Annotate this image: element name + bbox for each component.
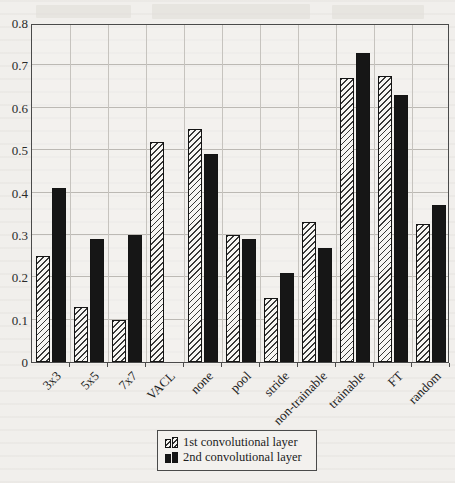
x-tick <box>69 363 70 367</box>
x-tick <box>449 363 450 367</box>
bar-non-trainable-1st-layer <box>302 222 316 362</box>
y-tick-label-0.3: 0.3 <box>1 228 28 243</box>
gridline-horizontal <box>32 64 448 65</box>
x-tick <box>411 363 412 367</box>
bar-trainable-1st-layer <box>340 78 354 362</box>
bar-3x3-2nd-layer <box>52 188 66 362</box>
gridline-vertical <box>222 25 223 362</box>
y-tick-label-0.1: 0.1 <box>1 313 28 328</box>
gridline-vertical <box>374 25 375 362</box>
gridline-vertical <box>146 25 147 362</box>
legend-label: 1st convolutional layer <box>183 435 298 450</box>
y-tick-label-0.7: 0.7 <box>1 58 28 73</box>
legend-item-2nd-layer: 2nd convolutional layer <box>165 450 309 465</box>
gridline-vertical <box>108 25 109 362</box>
gridline-vertical <box>70 25 71 362</box>
legend-swatch-hatched-icon <box>165 437 178 448</box>
bar-random-1st-layer <box>416 224 430 362</box>
bar-trainable-2nd-layer <box>356 53 370 362</box>
legend-item-1st-layer: 1st convolutional layer <box>165 435 309 450</box>
bar-ft-1st-layer <box>378 76 392 362</box>
bar-random-2nd-layer <box>432 205 446 362</box>
bar-pool-2nd-layer <box>242 239 256 362</box>
x-tick <box>145 363 146 367</box>
bar-stride-1st-layer <box>264 298 278 362</box>
gridline-vertical <box>298 25 299 362</box>
chart-legend: 1st convolutional layer 2nd convolutiona… <box>157 430 317 471</box>
bar-ft-2nd-layer <box>394 95 408 362</box>
x-tick <box>221 363 222 367</box>
bar-pool-1st-layer <box>226 235 240 362</box>
y-tick-label-0.6: 0.6 <box>1 101 28 116</box>
gridline-vertical <box>260 25 261 362</box>
bar-vacl-1st-layer <box>150 142 164 362</box>
bar-7x7-1st-layer <box>112 320 126 362</box>
bar-5x5-2nd-layer <box>90 239 104 362</box>
bar-chart-figure: 00.10.20.30.40.50.60.70.8 3x35x57x7VACLn… <box>0 0 455 483</box>
x-tick <box>335 363 336 367</box>
gridline-vertical <box>184 25 185 362</box>
y-tick-label-0: 0 <box>1 355 28 370</box>
gridline-vertical <box>412 25 413 362</box>
plot-area <box>31 24 449 363</box>
bar-7x7-2nd-layer <box>128 235 142 362</box>
bar-none-1st-layer <box>188 129 202 362</box>
bar-5x5-1st-layer <box>74 307 88 362</box>
y-tick-label-0.2: 0.2 <box>1 270 28 285</box>
legend-label: 2nd convolutional layer <box>183 450 302 465</box>
bar-stride-2nd-layer <box>280 273 294 362</box>
x-tick <box>107 363 108 367</box>
y-tick-label-0.4: 0.4 <box>1 186 28 201</box>
y-tick-label-0.8: 0.8 <box>1 16 28 31</box>
y-tick-label-0.5: 0.5 <box>1 143 28 158</box>
bar-3x3-1st-layer <box>36 256 50 362</box>
x-tick <box>297 363 298 367</box>
x-tick <box>259 363 260 367</box>
gridline-vertical <box>336 25 337 362</box>
x-tick <box>373 363 374 367</box>
bar-none-2nd-layer <box>204 154 218 362</box>
bar-non-trainable-2nd-layer <box>318 248 332 362</box>
legend-swatch-black-icon <box>165 452 178 463</box>
x-tick <box>183 363 184 367</box>
